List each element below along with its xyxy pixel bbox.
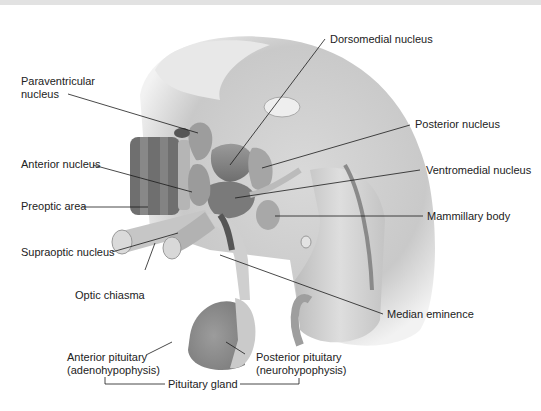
label-anterior-pituitary: Anterior pituitary (adenohypophysis) <box>67 351 160 377</box>
label-posterior-nucleus: Posterior nucleus <box>415 118 500 131</box>
label-dorsomedial-nucleus: Dorsomedial nucleus <box>330 33 433 46</box>
label-ventromedial-nucleus: Ventromedial nucleus <box>426 164 531 177</box>
label-adenohypophysis: (adenohypophysis) <box>67 364 160 377</box>
label-optic-chiasma: Optic chiasma <box>75 289 145 302</box>
mammillary-body-structure <box>256 200 280 230</box>
preoptic-area-structure <box>130 137 180 215</box>
label-preoptic-area: Preoptic area <box>21 200 86 213</box>
label-anterior-nucleus: Anterior nucleus <box>21 158 101 171</box>
label-posterior-pituitary: Posterior pituitary (neurohypophysis) <box>256 351 347 377</box>
label-paraventricular-line2: nucleus <box>21 88 95 101</box>
label-anterior-pituitary-line1: Anterior pituitary <box>67 351 160 364</box>
label-paraventricular-nucleus: Paraventricular nucleus <box>21 75 95 101</box>
label-paraventricular-line1: Paraventricular <box>21 75 95 88</box>
label-supraoptic-nucleus: Supraoptic nucleus <box>21 246 115 259</box>
label-mammillary-body: Mammillary body <box>427 210 510 223</box>
label-pituitary-gland: Pituitary gland <box>168 378 238 391</box>
label-posterior-pituitary-line1: Posterior pituitary <box>256 351 347 364</box>
label-median-eminence: Median eminence <box>387 308 474 321</box>
label-neurohypophysis: (neurohypophysis) <box>256 364 347 377</box>
